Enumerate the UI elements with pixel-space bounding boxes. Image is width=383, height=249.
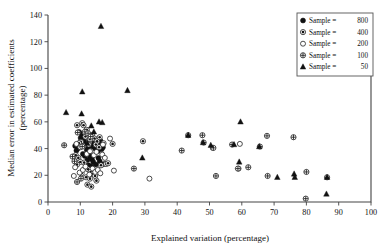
data-point-dot: [95, 179, 98, 182]
chart-canvas: 0102030405060708090100 02040608010012014…: [0, 0, 383, 249]
x-tick-label: 20: [109, 208, 117, 217]
x-tick-label: 70: [270, 208, 278, 217]
data-point: [147, 176, 152, 181]
legend-value-800: 800: [357, 17, 368, 25]
x-tick-label: 90: [335, 208, 343, 217]
data-point: [94, 149, 99, 154]
data-point: [87, 149, 92, 154]
data-point: [237, 141, 242, 146]
data-point-dot: [111, 143, 114, 146]
x-tick-label: 10: [76, 208, 84, 217]
data-point: [71, 173, 76, 178]
data-point-dot: [98, 136, 101, 139]
y-axis-title-line2: (percentage): [17, 86, 27, 131]
legend-label-200: Sample =: [309, 40, 336, 48]
legend-label-100: Sample =: [309, 52, 336, 60]
y-tick-label: 120: [30, 38, 42, 47]
data-point-dot: [100, 164, 103, 167]
legend-value-100: 100: [357, 52, 368, 60]
data-point: [83, 164, 88, 169]
data-point-dot: [89, 177, 92, 180]
data-point-dot: [76, 124, 79, 127]
data-point-dot: [83, 161, 86, 164]
data-point: [102, 155, 107, 160]
data-point-dot: [86, 183, 89, 186]
legend-value-400: 400: [357, 29, 368, 37]
data-point-dot: [82, 124, 85, 127]
data-point: [111, 168, 116, 173]
y-tick-label: 100: [30, 64, 42, 73]
scatter-plot-figure: 0102030405060708090100 02040608010012014…: [0, 0, 383, 249]
y-tick-label: 40: [34, 145, 42, 154]
y-tick-label: 0: [38, 198, 42, 207]
legend-item-100[interactable]: Sample =100: [300, 52, 368, 60]
data-point-dot: [94, 175, 97, 178]
data-point-dot: [77, 157, 80, 160]
x-tick-label: 100: [365, 208, 377, 217]
legend-marker-800: [301, 18, 306, 23]
data-point-dot: [90, 185, 93, 188]
x-tick-label: 40: [173, 208, 181, 217]
chart-legend[interactable]: Sample =800Sample =400Sample =200Sample …: [297, 13, 373, 76]
y-tick-label: 80: [34, 91, 42, 100]
data-point-dot: [142, 140, 145, 143]
legend-marker-400-dot: [302, 31, 305, 34]
legend-marker-200: [301, 41, 306, 46]
legend-item-800[interactable]: Sample =800: [301, 17, 369, 25]
legend-label-50: Sample =: [309, 63, 336, 71]
x-tick-label: 0: [46, 208, 50, 217]
data-point: [108, 136, 113, 141]
x-axis-title: Explained variation (percentage): [151, 233, 269, 243]
legend-item-400[interactable]: Sample =400: [300, 29, 368, 37]
data-point: [98, 171, 103, 176]
legend-value-50: 50: [361, 63, 369, 71]
data-point-dot: [98, 146, 101, 149]
data-point-dot: [107, 162, 110, 165]
legend-label-800: Sample =: [309, 17, 336, 25]
data-point: [73, 165, 78, 170]
x-tick-label: 60: [238, 208, 246, 217]
legend-label-400: Sample =: [309, 29, 336, 37]
x-tick-label: 30: [141, 208, 149, 217]
y-tick-label: 140: [30, 11, 42, 20]
legend-value-200: 200: [357, 40, 368, 48]
data-point: [87, 172, 92, 177]
y-tick-label: 60: [34, 118, 42, 127]
x-tick-label: 80: [302, 208, 310, 217]
data-point: [100, 142, 105, 147]
y-axis-title-line1: Median error in estimated coefficients: [6, 39, 16, 177]
x-tick-label: 50: [205, 208, 213, 217]
legend-item-200[interactable]: Sample =200: [301, 40, 369, 48]
y-tick-label: 20: [34, 171, 42, 180]
